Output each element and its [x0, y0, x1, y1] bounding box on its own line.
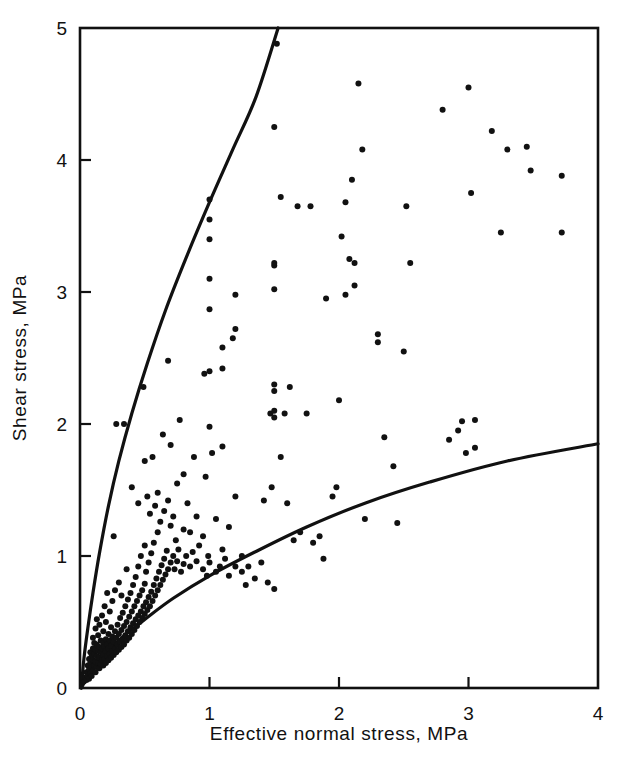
data-point: [200, 533, 206, 539]
data-point: [213, 516, 219, 522]
data-point: [336, 397, 342, 403]
data-point: [323, 296, 329, 302]
data-point: [271, 414, 277, 420]
data-point: [137, 593, 143, 599]
data-point: [160, 432, 166, 438]
data-point: [90, 635, 96, 641]
data-point: [187, 564, 193, 570]
data-point: [271, 286, 277, 292]
data-point: [191, 454, 197, 460]
y-axis-title: Shear stress, MPa: [9, 275, 30, 441]
data-point: [287, 384, 293, 390]
data-point: [183, 553, 189, 559]
data-point: [135, 564, 141, 570]
data-point: [528, 168, 534, 174]
data-point: [278, 454, 284, 460]
figure-container: 01234 012345 Effective normal stress, MP…: [0, 0, 627, 763]
data-point: [121, 421, 127, 427]
data-point: [165, 498, 171, 504]
data-point: [104, 590, 110, 596]
data-point: [142, 542, 148, 548]
data-point: [152, 593, 158, 599]
data-point: [155, 587, 161, 593]
data-point: [157, 582, 163, 588]
data-point: [130, 582, 136, 588]
data-point: [271, 388, 277, 394]
data-point: [117, 615, 123, 621]
data-point: [142, 458, 148, 464]
data-point: [151, 540, 157, 546]
data-point: [203, 474, 209, 480]
data-point: [455, 428, 461, 434]
data-point: [349, 177, 355, 183]
data-point: [170, 513, 176, 519]
data-point: [342, 199, 348, 205]
data-point: [173, 537, 179, 543]
data-point: [181, 561, 187, 567]
data-point: [156, 569, 162, 575]
data-point: [190, 549, 196, 555]
data-point: [346, 256, 352, 262]
data-point: [159, 562, 165, 568]
y-tick-label: 5: [56, 18, 67, 39]
data-point: [178, 569, 184, 575]
data-point: [222, 556, 228, 562]
data-point: [194, 513, 200, 519]
data-point: [355, 80, 361, 86]
data-point: [126, 614, 132, 620]
data-point: [139, 587, 145, 593]
data-point: [226, 524, 232, 530]
data-point: [118, 593, 124, 599]
data-point: [295, 203, 301, 209]
data-point: [128, 590, 134, 596]
data-point: [161, 556, 167, 562]
data-point: [95, 632, 101, 638]
data-point: [504, 146, 510, 152]
data-point: [524, 144, 530, 150]
data-point: [446, 437, 452, 443]
data-point: [219, 366, 225, 372]
data-point: [232, 494, 238, 500]
data-point: [120, 610, 126, 616]
data-point: [339, 234, 345, 240]
data-point: [440, 107, 446, 113]
data-point: [181, 471, 187, 477]
x-tick-label: 4: [593, 703, 604, 724]
data-point: [559, 173, 565, 179]
data-point: [403, 203, 409, 209]
data-point: [147, 511, 153, 517]
data-point: [261, 498, 267, 504]
data-point: [102, 603, 108, 609]
data-point: [164, 548, 170, 554]
data-point: [291, 537, 297, 543]
data-point: [394, 520, 400, 526]
data-point: [175, 546, 181, 552]
data-point: [375, 339, 381, 345]
data-point: [459, 418, 465, 424]
y-tick-label: 4: [56, 150, 67, 171]
data-point: [116, 579, 122, 585]
data-point: [252, 575, 258, 581]
data-point: [168, 560, 174, 566]
data-point: [217, 564, 223, 570]
data-point: [134, 598, 140, 604]
x-tick-label: 0: [75, 703, 86, 724]
data-point: [232, 326, 238, 332]
data-point: [207, 306, 213, 312]
data-point: [207, 276, 213, 282]
data-point: [230, 335, 236, 341]
data-point: [271, 586, 277, 592]
data-point: [96, 622, 102, 628]
data-point: [271, 260, 277, 266]
data-point: [124, 619, 130, 625]
data-point: [390, 463, 396, 469]
data-point: [213, 569, 219, 575]
data-point: [207, 216, 213, 222]
data-point: [131, 603, 137, 609]
data-point: [282, 410, 288, 416]
data-point: [168, 442, 174, 448]
data-point: [184, 500, 190, 506]
data-point: [142, 581, 148, 587]
data-point: [359, 146, 365, 152]
data-point: [122, 603, 128, 609]
